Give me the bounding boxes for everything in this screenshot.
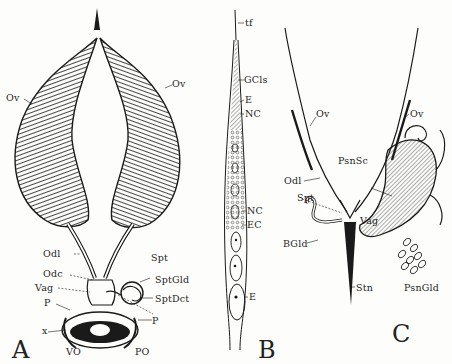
label-a-x: x (42, 326, 48, 336)
label-c-poison-sac: PsnSc (338, 156, 368, 166)
label-c-accessory-gland: BGld (283, 239, 308, 249)
panel-letter-a: A (12, 338, 29, 362)
label-b-epithelial-cells: EC (247, 220, 262, 230)
label-a-oviduct-common: Odc (43, 269, 63, 279)
label-c-vagina: Vag (360, 216, 378, 226)
label-a-spermathecal-duct: SptDct (155, 294, 189, 304)
illustration-artwork (0, 0, 452, 364)
label-a-ovary-left: Ov (6, 93, 20, 103)
panel-letter-b: B (258, 338, 276, 362)
panel-letter-c: C (392, 322, 410, 346)
label-b-terminal-filament: tf (245, 18, 253, 28)
label-a-ovary-right: Ov (172, 79, 186, 89)
label-a-vo: VO (66, 347, 81, 357)
label-a-spermathecal-gland: SptGld (155, 275, 189, 285)
panel-b-drawing (225, 10, 247, 350)
label-a-plate-right: P (152, 316, 159, 326)
label-c-ovary-left: Ov (316, 109, 330, 119)
label-c-sting: Stn (356, 283, 373, 293)
label-c-ovary-right: Ov (410, 109, 424, 119)
label-b-nurse-cells-bottom: NC (247, 206, 263, 216)
label-c-spermatheca: Spt (297, 193, 314, 203)
panel-c-drawing (285, 28, 445, 305)
label-a-oviduct-lateral: Odl (43, 249, 61, 259)
label-b-nurse-cells-top: NC (245, 109, 261, 119)
label-a-spermatheca: Spt (151, 253, 168, 263)
label-c-oviduct-lateral: Odl (284, 176, 302, 186)
label-a-plate-left: P (44, 298, 51, 308)
anatomical-figure: Ov Ov Odl Odc Vag P x Spt SptGld SptDct … (0, 0, 452, 364)
label-b-germ-cells: GCls (244, 75, 268, 85)
label-b-egg-top: E (245, 95, 252, 105)
label-a-po: PO (135, 347, 150, 357)
label-c-poison-gland: PsnGld (404, 283, 439, 293)
label-b-egg-bottom: E (249, 292, 256, 302)
label-a-vagina: Vag (35, 283, 53, 293)
